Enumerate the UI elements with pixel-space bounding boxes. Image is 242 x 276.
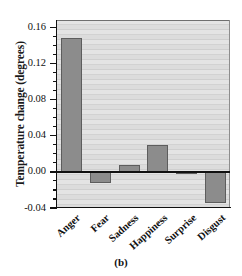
gridline-stripes: [57, 20, 230, 208]
y-tick-major: [50, 207, 57, 208]
y-tick-label: 0.16: [28, 22, 46, 33]
y-tick-minor: [53, 180, 58, 181]
y-tick-label: 0.00: [28, 166, 46, 177]
y-tick-minor: [53, 45, 58, 46]
y-tick-minor: [53, 54, 58, 55]
y-tick-minor: [53, 144, 58, 145]
y-tick-minor: [53, 81, 58, 82]
plot-area: [57, 20, 230, 208]
y-tick-major: [50, 135, 57, 136]
y-tick-minor: [53, 162, 58, 163]
y-tick-minor: [53, 126, 58, 127]
y-tick-label: 0.04: [28, 130, 46, 141]
y-tick-minor: [53, 90, 58, 91]
y-tick-minor: [53, 36, 58, 37]
y-tick-label: 0.08: [28, 94, 46, 105]
bar-anger[interactable]: [61, 38, 82, 172]
figure-caption: (b): [0, 256, 242, 268]
y-tick-minor: [53, 189, 58, 190]
bar-fear[interactable]: [90, 172, 111, 183]
plot-right-border: [229, 20, 230, 208]
y-tick-major: [50, 63, 57, 64]
y-tick-label: 0.12: [28, 58, 46, 69]
y-tick-minor: [53, 198, 58, 199]
bar-disgust[interactable]: [205, 172, 226, 204]
y-tick-minor: [53, 117, 58, 118]
y-tick-minor: [53, 108, 58, 109]
y-tick-label: -0.04: [24, 203, 46, 214]
y-axis-title: Temperature change (degrees): [14, 14, 26, 214]
y-tick-minor: [53, 153, 58, 154]
y-tick-major: [50, 99, 57, 100]
x-axis-line: [57, 207, 231, 208]
figure-panel: Temperature change (degrees) 0.160.120.0…: [0, 0, 242, 276]
y-tick-minor: [53, 72, 58, 73]
y-tick-major: [50, 27, 57, 28]
y-tick-major: [50, 171, 57, 172]
bar-happiness[interactable]: [147, 145, 168, 172]
plot-top-border: [57, 20, 230, 21]
zero-baseline: [57, 171, 230, 173]
